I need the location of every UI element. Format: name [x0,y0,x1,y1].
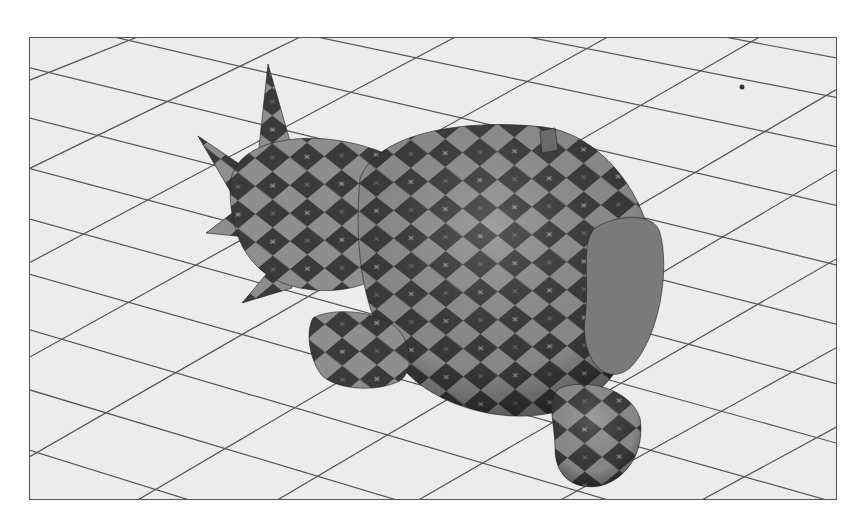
speck-dot [740,85,745,90]
scene-canvas [30,38,837,500]
render-viewport [29,37,837,500]
